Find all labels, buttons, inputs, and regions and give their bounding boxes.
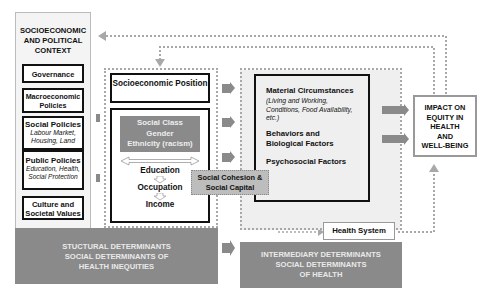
context-connector-icon [96,114,100,122]
context-item-social-policies: Social Policies Labour Market, Housing, … [22,116,84,150]
context-item-title: Social Policies [24,120,82,129]
impact-box: IMPACT ON EQUITY IN HEALTH AND WELL-BEIN… [413,95,477,157]
social-cohesion-box: Social Cohesion & Social Capital [191,170,269,195]
context-item-macroeconomic: Macroeconomic Policies [22,88,84,113]
impact-line: IMPACT ON [415,103,475,113]
factor-behaviors: Behaviors and Biological Factors [266,129,358,149]
context-item-sub: Labour Market, Housing, Land [24,129,82,145]
ladder-occupation: Occupation [120,183,200,192]
structural-banner: STUCTURAL DETERMINANTS SOCIAL DETERMINAN… [15,228,218,284]
context-connector-icon [96,174,100,182]
factor-psychosocial: Psychosocial Factors [266,157,358,166]
factor-material-circumstances: Material Circumstances (Living and Worki… [266,86,358,123]
impact-line: HEALTH [415,122,475,132]
context-item-title: Macroeconomic Policies [26,92,81,110]
impact-line: WELL-BEING [415,141,475,151]
stratifier-ethnicity: Ethnicity (racism) [120,139,200,150]
socioeconomic-position-title: Socioeconomic Position [112,79,207,88]
banner-line: INTERMEDIARY DETERMINANTS [240,250,402,260]
ladder-income: Income [120,200,200,209]
context-title: SOCIOECONOMIC AND POLITICAL CONTEXT [17,26,89,56]
context-item-title: Culture and Societal Values [25,200,80,218]
stratifier-gender: Gender [120,129,200,140]
context-item-sub: Education, Health, Social Protection [24,165,82,181]
intermediary-banner: INTERMEDIARY DETERMINANTS SOCIAL DETERMI… [240,242,402,288]
banner-line: SOCIAL DETERMINANTS [240,260,402,270]
banner-line: STUCTURAL DETERMINANTS [15,242,218,252]
factor-sub: (Living and Working, Conditions, Food Av… [266,97,358,123]
context-item-culture: Culture and Societal Values [22,196,84,220]
context-item-title: Public Policies [24,156,82,165]
factor-title: Material Circumstances [266,86,358,95]
double-arrow-icon [120,156,200,166]
context-item-governance: Governance [22,64,84,83]
impact-line: EQUITY IN [415,113,475,123]
health-system-box: Health System [323,222,395,240]
stratifiers-box: Social Class Gender Ethnicity (racism) [120,116,200,152]
ladder-education: Education [120,166,200,175]
impact-line: AND [415,132,475,142]
context-item-public-policies: Public Policies Education, Health, Socia… [22,150,84,190]
socioeconomic-position-box: Socioeconomic Position [110,73,210,103]
banner-line: SOCIAL DETERMINANTS OF [15,252,218,262]
banner-line: HEALTH INEQUITIES [15,262,218,272]
context-item-title: Governance [32,70,75,79]
banner-line: OF HEALTH [240,270,402,280]
stratifier-social-class: Social Class [120,118,200,129]
